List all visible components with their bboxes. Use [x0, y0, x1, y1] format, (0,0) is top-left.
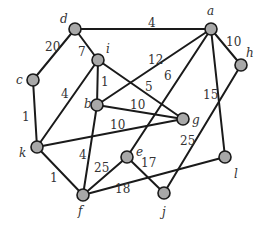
- node-label-d: d: [60, 12, 68, 26]
- node-f: [77, 189, 89, 201]
- node-label-i: i: [106, 42, 110, 56]
- edge-weight-b-f: 4: [79, 148, 87, 162]
- node-a: [205, 23, 217, 35]
- node-d: [69, 23, 81, 35]
- edge-weight-d-c: 20: [45, 40, 60, 54]
- node-label-a: a: [207, 4, 214, 18]
- edge-weight-b-g: 10: [130, 98, 145, 112]
- edge-weight-a-h: 10: [226, 35, 241, 49]
- node-c: [27, 74, 39, 86]
- edge-weight-d-i: 7: [78, 45, 86, 59]
- edge-weight-i-g: 5: [145, 80, 153, 94]
- edge-weight-layer: 42071145126101510104125171825: [22, 16, 241, 196]
- edge-weight-c-k: 1: [22, 110, 30, 124]
- edge-weight-a-l: 15: [203, 88, 218, 102]
- node-label-k: k: [19, 146, 26, 160]
- node-i: [92, 54, 104, 66]
- graph-diagram: 42071145126101510104125171825 abcdefghij…: [0, 0, 265, 231]
- edge-weight-h-j: 25: [180, 134, 195, 148]
- node-label-l: l: [234, 167, 238, 181]
- node-label-h: h: [246, 46, 254, 60]
- node-l: [219, 151, 231, 163]
- node-b: [91, 99, 103, 111]
- node-g: [177, 113, 189, 125]
- node-label-b: b: [84, 97, 92, 111]
- edge-weight-k-f: 1: [50, 171, 58, 185]
- edge-weight-f-l: 18: [115, 182, 130, 196]
- node-label-c: c: [16, 73, 23, 87]
- edge-weight-a-b: 12: [148, 53, 163, 67]
- edge-weight-e-j: 17: [141, 156, 156, 170]
- edge-weight-f-e: 25: [94, 161, 109, 175]
- edge-d-c: [33, 29, 75, 80]
- node-label-e: e: [136, 145, 143, 159]
- node-j: [158, 187, 170, 199]
- edge-weight-d-a: 4: [148, 16, 156, 30]
- edge-weight-i-b: 1: [101, 75, 109, 89]
- edge-c-k: [33, 80, 37, 147]
- edge-weight-i-k: 4: [61, 87, 69, 101]
- node-label-g: g: [192, 113, 200, 127]
- node-e: [121, 151, 133, 163]
- edge-weight-a-e: 6: [164, 69, 172, 83]
- edge-a-b: [97, 29, 211, 105]
- edge-k-f: [37, 147, 83, 195]
- edge-layer: [33, 29, 241, 195]
- node-k: [31, 141, 43, 153]
- node-label-j: j: [159, 205, 166, 219]
- node-label-f: f: [77, 204, 85, 218]
- edge-weight-k-g: 10: [110, 118, 125, 132]
- edge-a-e: [127, 29, 211, 157]
- node-h: [235, 59, 247, 71]
